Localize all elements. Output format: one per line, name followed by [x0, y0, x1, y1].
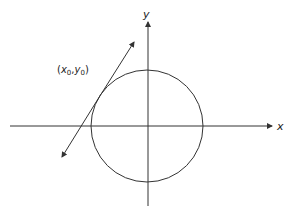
tangent-line — [98, 42, 134, 99]
x-axis-label: x — [276, 120, 284, 133]
y-axis-label: y — [142, 8, 150, 21]
tangent-circle-diagram: x y (x0,y0) — [0, 0, 292, 214]
tangent-line-lower — [62, 99, 98, 157]
point-label: (x0,y0) — [57, 64, 89, 77]
